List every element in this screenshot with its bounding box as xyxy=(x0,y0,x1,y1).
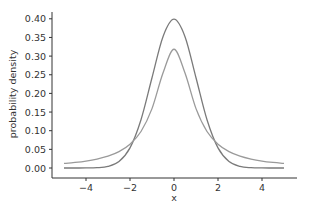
y-tick-label: 0.40 xyxy=(25,13,46,24)
chart-canvas: 0.000.050.100.150.200.250.300.350.40 −4−… xyxy=(0,0,310,208)
x-axis-ticks: −4−2024 xyxy=(79,178,265,193)
y-tick-label: 0.20 xyxy=(25,88,46,99)
plot-area xyxy=(64,19,284,168)
x-tick-label: −4 xyxy=(79,182,93,193)
x-tick-label: −2 xyxy=(123,182,137,193)
y-tick-label: 0.10 xyxy=(25,125,46,136)
cauchy-curve xyxy=(64,49,284,163)
y-tick-label: 0.25 xyxy=(25,69,46,80)
x-tick-label: 4 xyxy=(259,182,265,193)
y-axis-ticks: 0.000.050.100.150.200.250.300.350.40 xyxy=(25,13,52,173)
y-tick-label: 0.30 xyxy=(25,51,46,62)
y-axis-label: probability density xyxy=(7,49,18,138)
y-tick-label: 0.00 xyxy=(25,163,46,174)
x-axis-label: x xyxy=(171,192,177,203)
y-tick-label: 0.15 xyxy=(25,107,46,118)
normal-curve xyxy=(64,19,284,168)
x-tick-label: 2 xyxy=(215,182,221,193)
y-tick-label: 0.35 xyxy=(25,32,46,43)
y-tick-label: 0.05 xyxy=(25,144,46,155)
